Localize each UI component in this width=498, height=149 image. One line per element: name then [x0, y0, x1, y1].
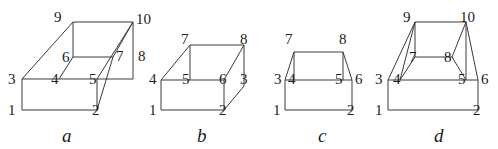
vertex-label-a-6: 6 [62, 50, 70, 65]
edge-10-6 [466, 22, 478, 80]
vertex-label-c-8: 8 [339, 32, 347, 47]
figure-d-edges [388, 22, 478, 110]
vertex-label-d-4: 4 [393, 72, 401, 87]
vertex-label-b-3: 3 [240, 72, 248, 87]
vertex-label-b-7: 7 [181, 32, 189, 47]
vertex-label-a-5: 5 [89, 72, 97, 87]
vertex-label-d-8: 8 [444, 50, 452, 65]
wireframe-drawing [0, 0, 498, 149]
vertex-label-d-5: 5 [458, 72, 466, 87]
vertex-label-a-4: 4 [51, 72, 59, 87]
edge-3-2 [224, 86, 244, 110]
vertex-label-a-2: 2 [92, 103, 100, 118]
vertex-label-b-2: 2 [219, 103, 227, 118]
edge-8-6 [343, 52, 352, 80]
vertex-label-c-3: 3 [274, 72, 282, 87]
vertex-label-d-7: 7 [409, 50, 417, 65]
vertex-label-d-3: 3 [375, 72, 383, 87]
vertex-label-b-1: 1 [149, 103, 157, 118]
vertex-label-b-4: 4 [149, 72, 157, 87]
vertex-label-d-6: 6 [481, 72, 489, 87]
vertex-label-c-1: 1 [273, 103, 281, 118]
vertex-label-d-2: 2 [473, 103, 481, 118]
vertex-label-c-5: 5 [335, 72, 343, 87]
vertex-label-d-10: 10 [460, 10, 475, 25]
vertex-label-a-7: 7 [116, 49, 124, 64]
figure-a-edges [22, 22, 133, 110]
vertex-label-a-1: 1 [8, 103, 16, 118]
vertex-label-d-9: 9 [403, 10, 411, 25]
vertex-label-a-10: 10 [136, 12, 151, 27]
vertex-label-a-3: 3 [8, 72, 16, 87]
vertex-label-c-6: 6 [355, 72, 363, 87]
vertex-label-b-8: 8 [240, 32, 248, 47]
vertex-label-d-1: 1 [375, 103, 383, 118]
vertex-label-c-4: 4 [288, 72, 296, 87]
vertex-label-c-7: 7 [285, 32, 293, 47]
figure-caption-d: d [434, 126, 444, 145]
figure-caption-a: a [62, 126, 72, 145]
vertex-label-c-2: 2 [347, 103, 355, 118]
vertex-label-a-9: 9 [54, 10, 62, 25]
figure-caption-b: b [197, 126, 207, 145]
vertex-label-a-8: 8 [138, 49, 146, 64]
vertex-label-b-5: 5 [182, 72, 190, 87]
vertex-label-b-6: 6 [219, 72, 227, 87]
figure-caption-c: c [318, 126, 326, 145]
edge-8-10 [452, 22, 466, 57]
figure-b-edges [161, 45, 244, 110]
geometry-figure-panel: 12345678910123456781234567812345678910 a… [0, 0, 498, 149]
